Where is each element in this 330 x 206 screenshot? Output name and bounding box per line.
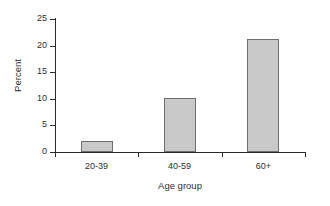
y-axis-tick-label: 5 <box>0 120 47 129</box>
x-axis-category-label: 60+ <box>222 161 305 172</box>
x-axis-category-label: 20-39 <box>55 161 138 172</box>
bar-60+ <box>247 39 279 152</box>
bar-40-59 <box>164 98 196 152</box>
y-axis-tick-label: 10 <box>0 94 47 103</box>
x-axis-tick <box>55 152 56 157</box>
y-axis-tick-label: 25 <box>0 14 47 23</box>
y-axis-tick-label: 20 <box>0 41 47 50</box>
x-axis-line <box>55 152 306 153</box>
chart-figure: Percent 0510152025 20-3940-5960+ Age gro… <box>0 0 330 206</box>
bar-20-39 <box>81 141 113 152</box>
y-axis-tick-label: 0 <box>0 147 47 156</box>
x-axis-tick <box>222 152 223 157</box>
x-axis-tick <box>138 152 139 157</box>
x-axis-title: Age group <box>55 180 305 191</box>
x-axis-category-label: 40-59 <box>138 161 221 172</box>
y-axis-tick-label: 15 <box>0 67 47 76</box>
plot-area <box>55 19 305 152</box>
x-axis-tick <box>305 152 306 157</box>
